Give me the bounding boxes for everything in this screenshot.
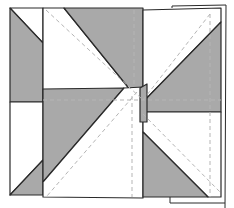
quilt-block-diagram [0, 0, 234, 208]
bottom-left-panel [10, 102, 43, 195]
bottom-right-panel [143, 112, 225, 203]
bottom-right-tab [170, 197, 225, 203]
top-left-panel [10, 8, 43, 102]
